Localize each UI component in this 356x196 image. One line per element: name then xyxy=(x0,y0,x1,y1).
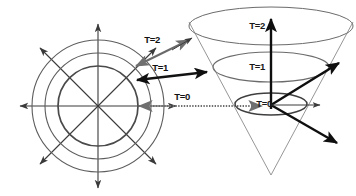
connector-arrow-t2-tip xyxy=(172,38,192,50)
connector-arrow-t1 xyxy=(137,72,207,80)
connector-arrow-group: T=2 T=1 T=0 xyxy=(136,34,262,106)
connector-label-t0: T=0 xyxy=(174,91,190,102)
cone-label-t0: T=0 xyxy=(256,98,272,109)
figure-canvas: T=2 T=1 T=0 T=2 T=1 xyxy=(0,0,356,196)
radial-arrow-se xyxy=(98,106,156,164)
cone-axis-x-down xyxy=(271,105,337,143)
connector-label-t1: T=1 xyxy=(152,62,169,73)
radial-arrow-sw xyxy=(40,106,98,164)
cone-label-t2: T=2 xyxy=(249,20,265,31)
cone-label-t1: T=1 xyxy=(249,61,266,72)
radial-arrow-group xyxy=(20,24,176,188)
cone-axis-y-up xyxy=(271,63,339,105)
connector-label-t2: T=2 xyxy=(144,34,160,45)
left-panel-wavefronts xyxy=(20,24,176,188)
right-panel-lightcone: T=2 T=1 T=0 xyxy=(189,7,353,175)
diagram-svg: T=2 T=1 T=0 T=2 T=1 xyxy=(0,0,356,196)
radial-arrow-ne xyxy=(98,48,156,106)
radial-arrow-nw xyxy=(40,48,98,106)
